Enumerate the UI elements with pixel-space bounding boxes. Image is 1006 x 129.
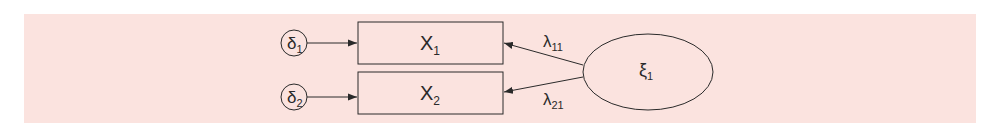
indicator-subscript: 2 <box>433 94 440 108</box>
latent-symbol: ξ <box>639 60 647 80</box>
error-subscript: 1 <box>296 43 302 55</box>
error-subscript: 2 <box>296 97 302 109</box>
latent-subscript: 1 <box>647 70 653 82</box>
indicator-symbol: X <box>420 82 433 104</box>
error-symbol: δ <box>287 34 296 53</box>
cfa-diagram: δ1 δ2 X1 X2 λ11 λ21 ξ1 <box>0 0 1006 129</box>
indicator-subscript: 1 <box>433 44 440 58</box>
indicator-symbol: X <box>420 32 433 54</box>
diagram-background <box>24 14 976 123</box>
error-symbol: δ <box>287 88 296 107</box>
